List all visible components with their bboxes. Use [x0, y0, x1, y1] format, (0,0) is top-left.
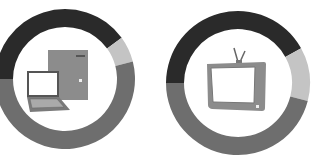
- donut-segment-light: [285, 48, 310, 101]
- donut-tv-svg: [0, 0, 314, 157]
- donut-chart-tv: [0, 0, 314, 157]
- tv-icon: [207, 48, 266, 111]
